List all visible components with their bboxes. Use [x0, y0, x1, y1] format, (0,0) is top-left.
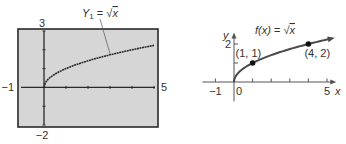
x-axis-arrowhead-icon [330, 80, 336, 85]
plot-point [250, 60, 256, 66]
plot-function-label: f(x) = √x [255, 24, 295, 36]
fn-name: f(x) [255, 24, 271, 36]
window-ymax-label: 3 [39, 17, 45, 29]
calculator-graph: Y1 = √x 3 −2 −1 5 [1, 7, 167, 141]
plot-point [306, 41, 312, 47]
calculator-function-label: Y1 = √x [82, 7, 118, 21]
sqrt-graph: (1, 1)(4, 2) −1052 x y f(x) = √x [202, 24, 341, 101]
x-axis-label: x [334, 85, 341, 97]
x-tick-label: 0 [236, 85, 242, 97]
plot-points: (1, 1)(4, 2) [236, 41, 330, 66]
y-axis-arrowhead-icon [232, 33, 237, 39]
x-tick-label: 5 [324, 85, 330, 97]
fn-arg: x [111, 7, 118, 19]
window-xmin-label: −1 [1, 81, 14, 93]
window-ymin-label: −2 [36, 129, 49, 141]
figure: Y1 = √x 3 −2 −1 5 (1, 1)(4, 2) −1052 x y… [0, 0, 346, 144]
fn-eq: = [271, 24, 284, 36]
x-tick-label: −1 [209, 85, 222, 97]
plot-point-label: (1, 1) [236, 47, 262, 59]
plot-point-label: (4, 2) [304, 47, 330, 59]
window-xmax-label: 5 [161, 81, 167, 93]
plot-curve-sqrt [234, 39, 329, 82]
fn-arg: x [288, 24, 295, 36]
calculator-screen [18, 29, 158, 127]
fn-eq: = [94, 7, 107, 19]
curve-arrowhead-icon [327, 36, 334, 42]
